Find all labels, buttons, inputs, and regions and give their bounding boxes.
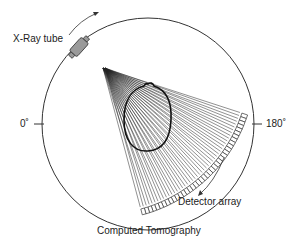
ct-diagram: X-Ray tube 0˚ 180˚ Detector array Comput… [0, 0, 296, 244]
tube-rotation-arrow [69, 13, 97, 35]
angle-0-label: 0˚ [20, 118, 29, 129]
xray-tube-label: X-Ray tube [13, 33, 63, 44]
detector-array-label: Detector array [178, 196, 241, 207]
diagram-title: Computed Tomography [97, 225, 201, 236]
xray-fan-beam [103, 68, 240, 207]
angle-180-label: 180˚ [266, 118, 286, 129]
xray-tube-icon [67, 34, 92, 60]
